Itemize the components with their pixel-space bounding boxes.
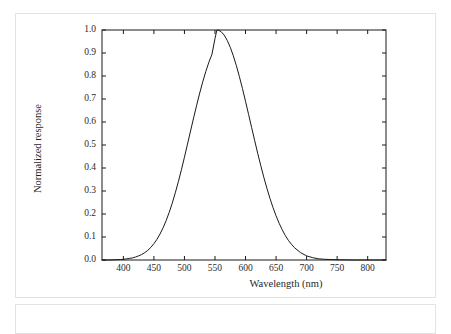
response-curve (102, 30, 386, 260)
figure-card: 0.00.10.20.30.40.50.60.70.80.91.0 400450… (15, 13, 436, 298)
chart-figure: 0.00.10.20.30.40.50.60.70.80.91.0 400450… (16, 14, 437, 299)
x-tick-label: 450 (147, 264, 161, 274)
y-tick-label: 0.2 (56, 209, 96, 219)
y-tick-label: 1.0 (56, 25, 96, 35)
x-axis-title: Wavelength (nm) (186, 278, 386, 289)
y-tick-label: 0.7 (56, 94, 96, 104)
next-content-card (15, 304, 436, 334)
y-tick-label: 0.9 (56, 48, 96, 58)
y-tick-label: 0.0 (56, 255, 96, 265)
x-tick-label: 550 (208, 264, 222, 274)
y-tick-label: 0.5 (56, 140, 96, 150)
x-tick-label: 650 (269, 264, 283, 274)
plot-frame (102, 30, 386, 260)
x-tick-label: 750 (330, 264, 344, 274)
y-axis-title: Normalized response (32, 84, 43, 214)
tick-marks (102, 30, 386, 260)
x-tick-label: 800 (361, 264, 375, 274)
x-tick-label: 700 (299, 264, 313, 274)
x-tick-label: 400 (116, 264, 130, 274)
x-tick-label: 600 (238, 264, 252, 274)
y-tick-label: 0.8 (56, 71, 96, 81)
y-tick-label: 0.3 (56, 186, 96, 196)
y-tick-label: 0.4 (56, 163, 96, 173)
y-tick-label: 0.1 (56, 232, 96, 242)
y-tick-label: 0.6 (56, 117, 96, 127)
x-tick-label: 500 (177, 264, 191, 274)
